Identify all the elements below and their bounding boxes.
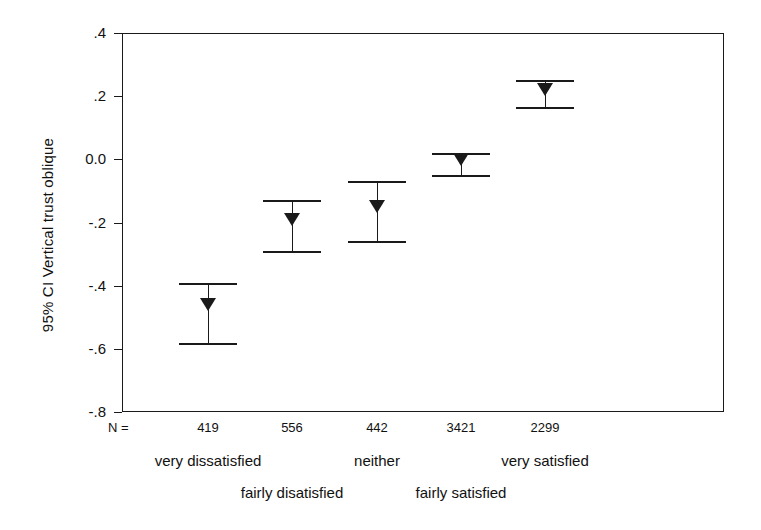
y-axis-tick <box>114 159 122 160</box>
y-axis-tick-label: .4 <box>58 24 106 41</box>
y-axis-tick <box>114 286 122 287</box>
y-axis-tick-label: -.4 <box>58 277 106 294</box>
error-bar-chart: 95% CI Vertical trust oblique .4.20.0-.2… <box>0 0 761 530</box>
error-bar-lower-cap <box>263 251 321 253</box>
error-bar-stem <box>292 200 293 251</box>
mean-marker <box>537 83 553 96</box>
y-axis-tick <box>114 412 122 413</box>
category-label: fairly disatisfied <box>197 484 387 501</box>
n-value: 2299 <box>505 420 585 435</box>
n-value: 3421 <box>421 420 501 435</box>
y-axis-tick-label: 0.0 <box>58 150 106 167</box>
error-bar-lower-cap <box>348 241 406 243</box>
y-axis-tick <box>114 223 122 224</box>
y-axis-tick-label: -.8 <box>58 403 106 420</box>
mean-marker <box>369 200 385 213</box>
n-equals-label: N = <box>108 420 129 435</box>
category-label: neither <box>282 452 472 469</box>
n-value: 419 <box>168 420 248 435</box>
n-value: 556 <box>252 420 332 435</box>
y-axis-tick-label: -.6 <box>58 340 106 357</box>
category-label: very satisfied <box>450 452 640 469</box>
category-label: fairly satisfied <box>366 484 556 501</box>
error-bar-stem <box>208 283 209 343</box>
mean-marker <box>453 153 469 166</box>
y-axis-tick-label: -.2 <box>58 214 106 231</box>
plot-area <box>122 33 724 412</box>
mean-marker <box>200 298 216 311</box>
mean-marker <box>284 213 300 226</box>
y-axis-tick <box>114 349 122 350</box>
y-axis-tick-label: .2 <box>58 87 106 104</box>
category-label: very dissatisfied <box>113 452 303 469</box>
error-bar-lower-cap <box>432 175 490 177</box>
error-bar-lower-cap <box>179 343 237 345</box>
n-value: 442 <box>337 420 417 435</box>
error-bar-lower-cap <box>516 107 574 109</box>
y-axis-tick <box>114 96 122 97</box>
y-axis-tick <box>114 33 122 34</box>
